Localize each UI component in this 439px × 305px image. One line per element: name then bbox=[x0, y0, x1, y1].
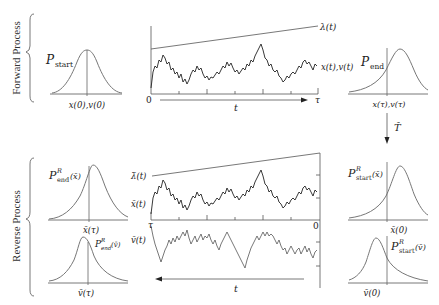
p-end-symbol: P bbox=[360, 55, 370, 69]
forward-process-label: Forward Process bbox=[10, 21, 22, 95]
p-end-r-x-symbol: P bbox=[48, 169, 57, 182]
p-start-subscript: start bbox=[55, 60, 73, 69]
lambda-bar-protocol-line bbox=[152, 153, 320, 176]
forward-brace bbox=[26, 14, 34, 102]
reverse-trajectory-plot: λ̄(t) x̄(t) v̄(t) τ 0 t bbox=[130, 153, 320, 294]
forward-time-label: t bbox=[234, 102, 238, 113]
p-start-r-v-distribution: P R start (v̄) v̄(0) bbox=[348, 236, 428, 298]
p-end-r-x-axis-label: x̄(τ) bbox=[83, 225, 99, 235]
p-start-r-x-symbol: P bbox=[347, 167, 356, 180]
p-start-r-v-arg: (v̄) bbox=[415, 243, 426, 252]
p-end-r-x-arg: (x̄) bbox=[70, 172, 81, 181]
operator-label: T̂ bbox=[394, 122, 402, 133]
reverse-v-trace bbox=[151, 226, 317, 268]
forward-trajectory-plot: λ(t) x(t),v(t) 0 τ t bbox=[146, 22, 353, 113]
lambda-label: λ(t) bbox=[319, 22, 337, 32]
p-start-r-v-axis-label: v̄(0) bbox=[364, 288, 381, 298]
p-start-axis-label: x(0),v(0) bbox=[69, 100, 105, 110]
forward-reverse-process-figure: Forward Process Reverse Process P start … bbox=[0, 0, 439, 305]
p-end-axis-label: x(τ),v(τ) bbox=[373, 100, 406, 109]
p-end-r-v-distribution: P R end (v̄) v̄(τ) bbox=[48, 237, 128, 298]
reverse-origin-label: 0 bbox=[313, 221, 319, 231]
reverse-time-label: t bbox=[234, 283, 238, 294]
reverse-arrowhead-icon bbox=[155, 277, 162, 282]
p-start-r-v-subscript: start bbox=[399, 247, 415, 255]
p-start-symbol: P bbox=[45, 53, 55, 67]
forward-trace bbox=[151, 44, 317, 88]
p-start-r-x-distribution: P R start (x̄) x̄(0) bbox=[347, 162, 428, 235]
p-end-r-v-arg: (v̄) bbox=[111, 241, 121, 249]
reverse-tau-label: τ bbox=[148, 220, 154, 230]
lambda-bar-label: λ̄(t) bbox=[130, 171, 146, 181]
p-end-r-x-subscript: end bbox=[57, 176, 69, 184]
lambda-protocol-line bbox=[151, 26, 318, 49]
p-start-r-x-superscript: R bbox=[355, 165, 361, 173]
forward-tau-label: τ bbox=[315, 95, 321, 105]
p-end-distribution: P end x(τ),v(τ) bbox=[348, 48, 428, 109]
reverse-x-trace-label: x̄(t) bbox=[131, 199, 146, 209]
reverse-process-label: Reverse Process bbox=[10, 190, 22, 262]
reverse-x-trace bbox=[151, 170, 317, 214]
p-start-r-v-superscript: R bbox=[398, 238, 404, 246]
p-start-distribution: P start x(0),v(0) bbox=[45, 50, 122, 110]
p-end-r-x-superscript: R bbox=[56, 167, 62, 175]
p-end-r-v-superscript: R bbox=[100, 237, 105, 243]
p-end-r-v-axis-label: v̄(τ) bbox=[78, 288, 94, 298]
p-start-r-v-symbol: P bbox=[390, 240, 399, 253]
time-reversal-operator: T̂ bbox=[385, 113, 403, 144]
p-start-r-x-axis-label: x̄(0) bbox=[391, 225, 408, 235]
down-arrow-icon bbox=[385, 137, 390, 144]
p-start-r-x-subscript: start bbox=[356, 174, 372, 182]
forward-arrowhead-icon bbox=[301, 98, 308, 103]
forward-trace-label: x(t),v(t) bbox=[321, 62, 353, 72]
forward-origin-label: 0 bbox=[146, 95, 152, 105]
p-start-r-x-arg: (x̄) bbox=[372, 170, 383, 179]
reverse-v-trace-label: v̄(t) bbox=[131, 235, 146, 245]
reverse-brace bbox=[26, 158, 34, 296]
p-end-subscript: end bbox=[370, 62, 384, 71]
p-end-r-x-distribution: P R end (x̄) x̄(τ) bbox=[48, 165, 128, 235]
